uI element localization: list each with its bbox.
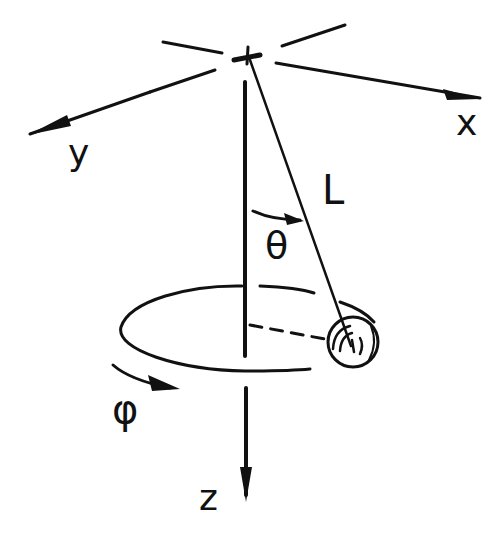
x-axis-arrowhead-icon bbox=[443, 89, 480, 100]
phi-label: φ bbox=[112, 386, 138, 432]
pendulum-bob-icon bbox=[328, 317, 378, 367]
z-axis-arrowhead-icon bbox=[240, 467, 252, 502]
x-axis-label: x bbox=[456, 102, 477, 143]
y-axis-arrowhead-icon bbox=[28, 115, 71, 135]
pivot-point-icon bbox=[234, 47, 260, 64]
theta-label: θ bbox=[265, 223, 288, 267]
y-axis-label: y bbox=[68, 132, 89, 173]
radius-dashed-line bbox=[250, 325, 330, 340]
spherical-pendulum-diagram: x y z L θ φ bbox=[0, 0, 502, 534]
phi-arrowhead-icon bbox=[148, 375, 180, 391]
x-axis bbox=[276, 63, 480, 100]
length-label: L bbox=[322, 167, 345, 213]
y-axis bbox=[28, 92, 150, 135]
z-axis-lower bbox=[240, 388, 252, 502]
z-axis-label: z bbox=[199, 477, 218, 518]
